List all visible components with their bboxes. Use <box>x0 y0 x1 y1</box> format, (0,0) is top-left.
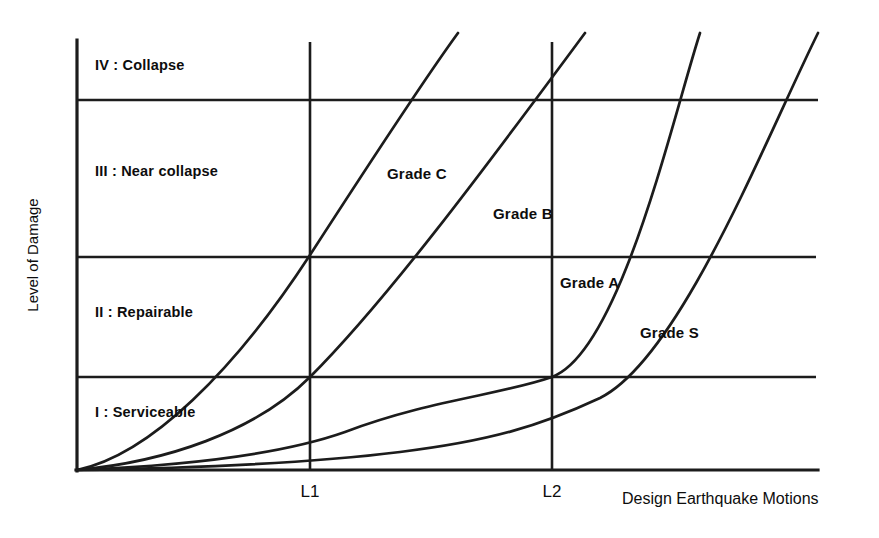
grade-a-label: Grade A <box>560 274 619 291</box>
x-axis-title: Design Earthquake Motions <box>622 490 819 507</box>
grade-s-label: Grade S <box>640 324 699 341</box>
x-tick-label-l1: L1 <box>301 482 320 501</box>
damage-level-labels: IV : Collapse III : Near collapse II : R… <box>95 57 218 420</box>
damage-level-3-label: III : Near collapse <box>95 163 218 179</box>
damage-level-1-label: I : Serviceable <box>95 404 196 420</box>
damage-band-boundaries <box>77 100 818 377</box>
x-tick-labels: L1 L2 <box>301 482 562 501</box>
damage-level-4-label: IV : Collapse <box>95 57 185 73</box>
damage-level-2-label: II : Repairable <box>95 304 193 320</box>
grade-b-label: Grade B <box>493 205 553 222</box>
x-tick-label-l2: L2 <box>543 482 562 501</box>
grade-c-label: Grade C <box>387 165 447 182</box>
damage-level-chart-figure: IV : Collapse III : Near collapse II : R… <box>0 0 879 538</box>
y-axis-title: Level of Damage <box>24 198 41 311</box>
chart-svg: IV : Collapse III : Near collapse II : R… <box>0 0 879 538</box>
